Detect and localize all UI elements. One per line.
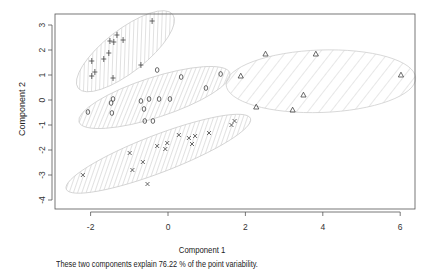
- x-tick-label: 6: [398, 222, 403, 232]
- x-axis: -20246: [87, 212, 403, 232]
- variability-caption: These two components explain 76.22 % of …: [56, 259, 258, 269]
- x-tick-label: 0: [166, 222, 171, 232]
- y-tick-label: 2: [37, 47, 47, 52]
- y-tick-label: 0: [37, 97, 47, 102]
- y-tick-label: -1: [37, 121, 47, 129]
- y-axis: -4-3-2-10123: [37, 22, 52, 203]
- y-tick-label: 1: [37, 72, 47, 77]
- y-tick-label: -2: [37, 146, 47, 154]
- x-tick-label: -2: [87, 222, 95, 232]
- data-point: [155, 68, 159, 73]
- y-tick-label: -4: [37, 196, 47, 204]
- x-tick-label: 2: [243, 222, 248, 232]
- cluster-plot: -20246 -4-3-2-10123: [0, 0, 435, 274]
- data-point: [263, 51, 268, 56]
- y-axis-label: Component 2: [17, 69, 27, 149]
- x-tick-label: 4: [320, 222, 325, 232]
- y-tick-label: -3: [37, 171, 47, 179]
- data-point: [145, 182, 149, 186]
- cluster-ellipse: [225, 47, 417, 116]
- y-tick-label: 3: [37, 22, 47, 27]
- x-axis-label: Component 1: [0, 245, 404, 255]
